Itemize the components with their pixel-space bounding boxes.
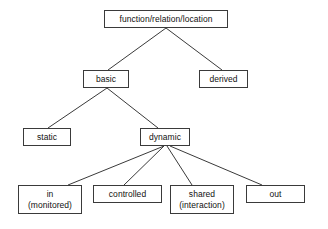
node-dynamic-label: dynamic	[149, 132, 181, 143]
node-in-sublabel: (monitored)	[28, 200, 72, 211]
node-out[interactable]: out	[246, 185, 305, 203]
edge-root-basic	[108, 28, 166, 70]
edge-dynamic-controlled	[124, 146, 164, 185]
edge-basic-static	[48, 88, 107, 128]
node-derived[interactable]: derived	[199, 70, 248, 88]
edge-root-derived	[166, 28, 222, 70]
node-root[interactable]: function/relation/location	[104, 10, 228, 28]
node-controlled-label: controlled	[109, 189, 146, 200]
node-derived-label: derived	[209, 74, 237, 85]
node-in-label: in	[47, 189, 54, 200]
node-basic[interactable]: basic	[83, 70, 129, 88]
node-shared-sublabel: (interaction)	[179, 200, 225, 211]
node-controlled[interactable]: controlled	[93, 185, 162, 203]
edge-dynamic-in	[68, 146, 164, 185]
node-root-label: function/relation/location	[120, 14, 213, 25]
node-shared-label: shared	[189, 189, 215, 200]
node-shared[interactable]: shared(interaction)	[170, 185, 234, 214]
node-static[interactable]: static	[23, 128, 71, 146]
node-basic-label: basic	[96, 74, 116, 85]
node-out-label: out	[270, 189, 282, 200]
edge-basic-dynamic	[107, 88, 158, 128]
diagram-canvas: function/relation/locationbasicderivedst…	[0, 0, 328, 229]
edge-dynamic-out	[170, 146, 262, 185]
node-dynamic[interactable]: dynamic	[140, 128, 190, 146]
edge-dynamic-shared	[167, 146, 192, 185]
node-in[interactable]: in(monitored)	[18, 185, 82, 214]
node-static-label: static	[37, 132, 57, 143]
